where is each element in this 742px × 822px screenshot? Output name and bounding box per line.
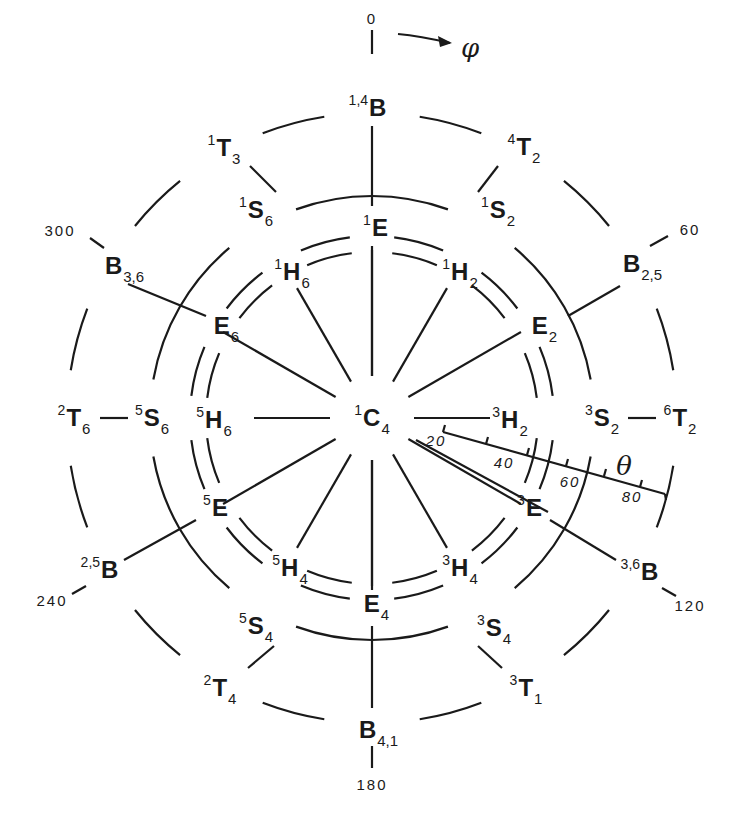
spoke-line bbox=[393, 454, 447, 548]
e-ring-arc-outer bbox=[227, 273, 263, 309]
node-letter: T bbox=[66, 404, 81, 431]
e-ring-arc-outer bbox=[482, 528, 518, 564]
theta-tick bbox=[527, 448, 529, 455]
node-superscript: 1,4 bbox=[349, 92, 368, 108]
spoke-line bbox=[297, 288, 351, 382]
e-ring-node-label: 3E bbox=[517, 496, 543, 520]
e-ring-arc-inner bbox=[207, 438, 219, 483]
e-ring-arc-outer bbox=[227, 528, 263, 564]
h-ring-node-label: 5H4 bbox=[272, 556, 307, 580]
outer-ring-node-label: 2T4 bbox=[204, 676, 237, 700]
outer-ring-arc bbox=[420, 117, 482, 134]
node-subscript: 4 bbox=[469, 570, 477, 587]
outer-ring-node-label: 2,5B bbox=[81, 558, 120, 582]
theta-tick bbox=[604, 469, 606, 476]
outer-ring-node-label: B2,5 bbox=[622, 252, 662, 276]
node-letter: S bbox=[248, 196, 264, 223]
h-ring-node-label: 3H4 bbox=[442, 556, 477, 580]
node-letter: S bbox=[486, 614, 502, 641]
node-superscript: 1 bbox=[442, 256, 450, 272]
node-subscript: 2,5 bbox=[641, 266, 662, 283]
phi-tick-label: 60 bbox=[680, 221, 701, 238]
outer-ring-arc bbox=[135, 610, 180, 655]
node-superscript: 3 bbox=[477, 612, 485, 628]
phi-tick-label: 180 bbox=[356, 776, 387, 793]
node-letter: E bbox=[532, 312, 548, 339]
spoke-b36-e6 bbox=[128, 284, 206, 316]
node-letter: S bbox=[144, 404, 160, 431]
theta-tick-label: 60 bbox=[560, 473, 581, 490]
e-ring-arc-outer bbox=[191, 347, 204, 396]
theta-tick-label: 40 bbox=[494, 454, 515, 471]
node-superscript: 1 bbox=[363, 212, 371, 228]
node-letter: T bbox=[216, 134, 231, 161]
theta-symbol: θ bbox=[616, 451, 632, 481]
h-ring-node-label: 3H2 bbox=[492, 408, 527, 432]
outer-ring-node-label: 3,6B bbox=[621, 560, 660, 584]
node-subscript: 4 bbox=[381, 420, 389, 437]
node-subscript: 2 bbox=[507, 212, 515, 229]
s-ring-node-label: 1S2 bbox=[481, 198, 515, 222]
node-subscript: 4 bbox=[381, 606, 389, 623]
outer-ring-node-label: 4T2 bbox=[508, 135, 541, 159]
spoke-line bbox=[297, 454, 351, 548]
spoke-line bbox=[393, 288, 447, 382]
phi-axis-stub bbox=[662, 588, 676, 596]
node-subscript: 2 bbox=[688, 420, 696, 437]
outer-ring-arc bbox=[135, 181, 180, 226]
node-superscript: 3,6 bbox=[621, 556, 640, 572]
phi-tick-label: 0 bbox=[367, 10, 377, 27]
e-ring-arc-inner bbox=[307, 571, 352, 583]
node-subscript: 3 bbox=[232, 150, 240, 167]
node-superscript: 4 bbox=[508, 131, 516, 147]
node-letter: H bbox=[451, 554, 468, 581]
node-superscript: 3 bbox=[517, 492, 525, 508]
outer-ring-node-label: 6T2 bbox=[664, 406, 697, 430]
connector-s-t bbox=[478, 646, 502, 668]
s-ring-node-label: 3S4 bbox=[477, 616, 511, 640]
node-letter: C bbox=[363, 404, 380, 431]
node-superscript: 1 bbox=[481, 194, 489, 210]
node-subscript: 6 bbox=[301, 274, 309, 291]
theta-tick bbox=[486, 437, 488, 444]
node-letter: E bbox=[526, 494, 542, 521]
e-ring-arc-outer bbox=[191, 440, 204, 489]
node-letter: T bbox=[516, 133, 531, 160]
phi-axis-stub bbox=[72, 586, 86, 594]
outer-ring-node-label: 1T3 bbox=[208, 136, 241, 160]
node-superscript: 2 bbox=[204, 672, 212, 688]
center-node-label: 1C4 bbox=[354, 406, 389, 430]
node-superscript: 3 bbox=[492, 404, 500, 420]
node-subscript: 6 bbox=[82, 420, 90, 437]
e-ring-arc-outer bbox=[301, 237, 350, 250]
node-letter: E bbox=[214, 312, 230, 339]
outer-ring-node-label: 2T6 bbox=[58, 406, 91, 430]
node-subscript: 6 bbox=[265, 212, 273, 229]
node-letter: B bbox=[623, 250, 640, 277]
node-superscript: 2,5 bbox=[81, 554, 100, 570]
arrow-head-icon bbox=[438, 36, 452, 47]
outer-ring-arc bbox=[564, 181, 609, 226]
e-ring-node-label: 5E bbox=[203, 496, 229, 520]
node-superscript: 5 bbox=[239, 610, 247, 626]
h-ring-node-label: 5H6 bbox=[196, 408, 231, 432]
node-letter: E bbox=[372, 214, 388, 241]
node-superscript: 5 bbox=[196, 404, 204, 420]
e-ring-arc-inner bbox=[525, 353, 537, 398]
e-ring-arc-outer bbox=[540, 347, 553, 396]
e-ring-arc-inner bbox=[392, 253, 437, 265]
node-subscript: 6 bbox=[223, 422, 231, 439]
node-subscript: 4 bbox=[265, 628, 273, 645]
connector-s-t bbox=[478, 166, 498, 192]
node-subscript: 4 bbox=[228, 690, 236, 707]
theta-tick bbox=[566, 459, 568, 466]
node-letter: H bbox=[281, 554, 298, 581]
node-subscript: 6 bbox=[161, 420, 169, 437]
node-letter: B bbox=[369, 94, 386, 121]
phi-axis-stub bbox=[650, 236, 668, 246]
spoke-line bbox=[223, 439, 336, 504]
node-letter: S bbox=[594, 404, 610, 431]
spoke-e3-b36 bbox=[550, 520, 616, 560]
outer-ring-arc bbox=[263, 703, 325, 720]
node-letter: E bbox=[212, 494, 228, 521]
